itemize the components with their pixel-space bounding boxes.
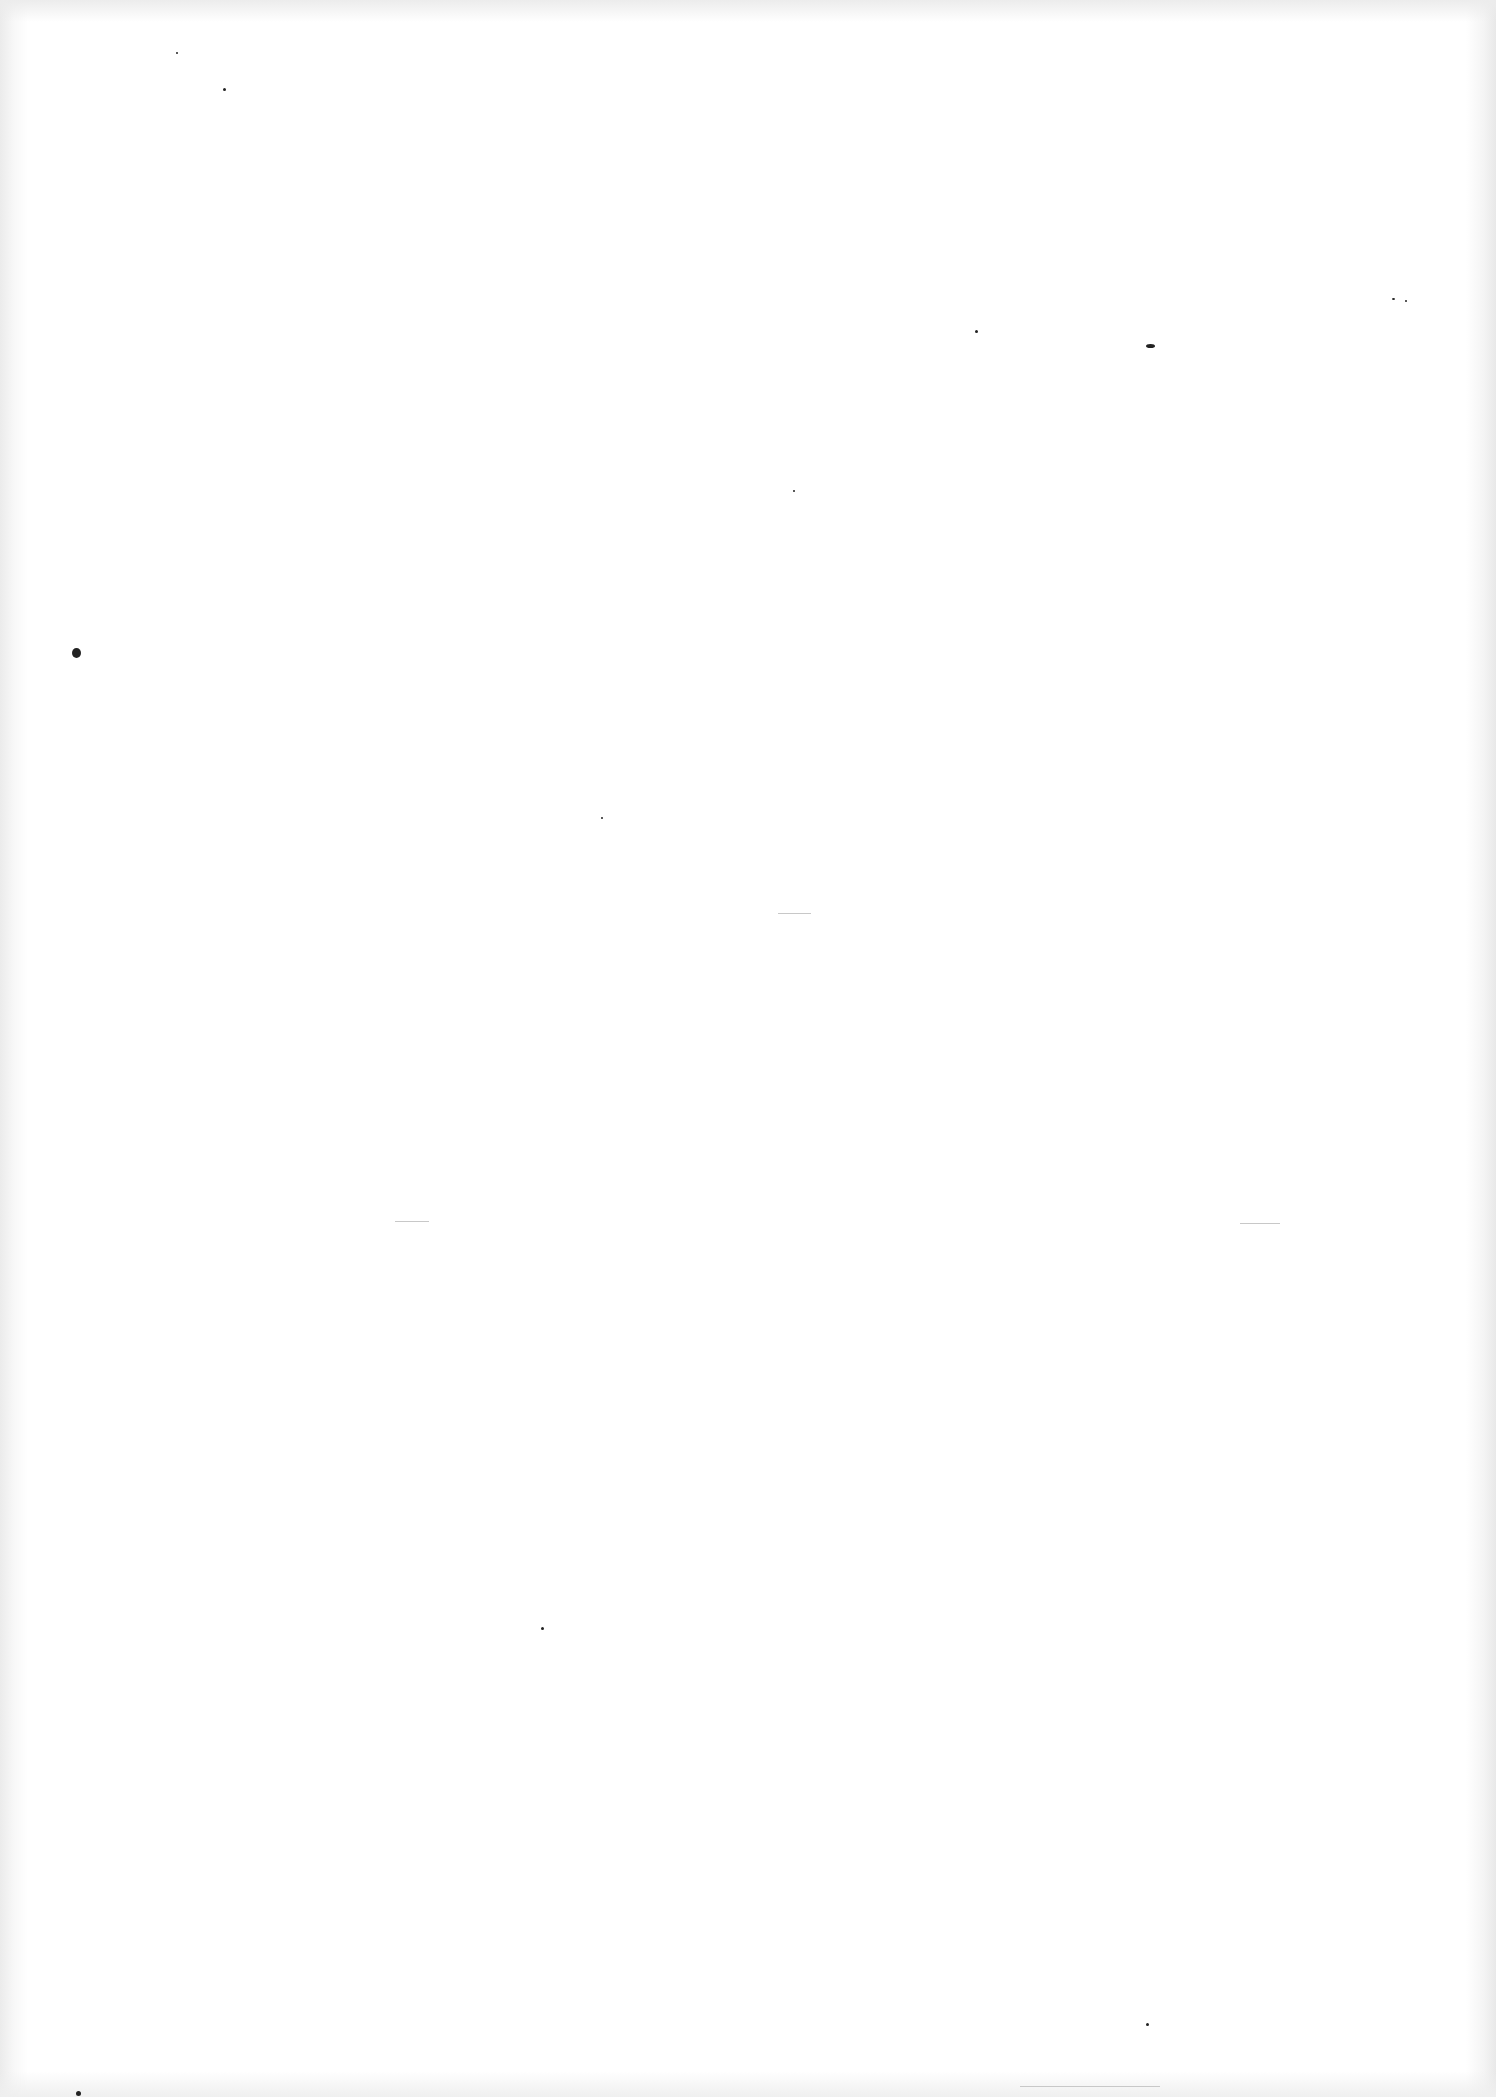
faint-mark xyxy=(1240,1223,1280,1224)
dust-speck xyxy=(76,2091,81,2096)
dust-speck xyxy=(1405,300,1407,302)
faint-mark xyxy=(395,1221,429,1222)
blank-scanned-page xyxy=(0,0,1496,2097)
dust-speck xyxy=(72,648,81,658)
dust-speck xyxy=(176,52,178,54)
dust-speck xyxy=(975,330,978,333)
dust-speck xyxy=(223,88,226,91)
dust-speck xyxy=(541,1627,544,1630)
dust-speck xyxy=(1392,298,1395,300)
page-bottom-edge-shadow xyxy=(0,2071,1496,2097)
dust-speck xyxy=(601,817,603,819)
dust-speck xyxy=(1146,344,1155,348)
dust-speck xyxy=(1146,2023,1149,2026)
page-top-edge-shadow xyxy=(0,0,1496,22)
dust-speck xyxy=(793,490,795,492)
faint-mark xyxy=(1020,2086,1160,2087)
faint-mark xyxy=(778,913,811,914)
